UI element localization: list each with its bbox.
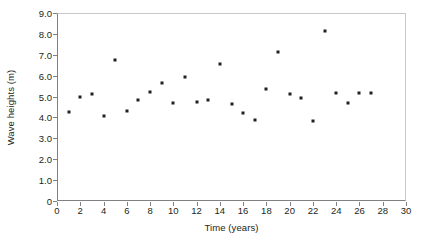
data-point — [300, 96, 303, 99]
y-axis-tick-mark — [53, 117, 57, 118]
y-axis-tick-mark — [53, 13, 57, 14]
x-axis-tick-label: 14 — [215, 205, 226, 216]
x-axis-tick-label: 28 — [377, 205, 388, 216]
data-point — [149, 91, 152, 94]
y-axis-tick-label: 9.0 — [24, 8, 52, 19]
plot-area — [57, 13, 406, 201]
y-axis-tick-label: 8.0 — [24, 28, 52, 39]
y-axis-tick-mark — [53, 180, 57, 181]
y-axis-label: Wave heights (m) — [6, 70, 17, 146]
x-axis-tick-label: 16 — [238, 205, 249, 216]
data-point — [265, 88, 268, 91]
x-axis-tick-label: 2 — [78, 205, 83, 216]
data-point — [172, 101, 175, 104]
data-point — [311, 119, 314, 122]
y-axis-tick-labels: 01.02.03.04.05.06.07.08.09.0 — [24, 0, 52, 244]
y-axis-tick-mark — [53, 34, 57, 35]
data-point — [102, 115, 105, 118]
scatter-plot-figure: Wave heights (m) 01.02.03.04.05.06.07.08… — [0, 0, 425, 244]
data-point — [125, 110, 128, 113]
x-axis-label: Time (years) — [57, 222, 406, 233]
x-axis-tick-label: 18 — [261, 205, 272, 216]
data-point — [137, 98, 140, 101]
x-axis-tick-label: 24 — [331, 205, 342, 216]
data-point — [79, 95, 82, 98]
x-axis-tick-label: 22 — [308, 205, 319, 216]
y-axis-label-container: Wave heights (m) — [0, 0, 22, 215]
x-axis-tick-label: 10 — [168, 205, 179, 216]
x-axis-tick-label: 12 — [191, 205, 202, 216]
y-axis-tick-label: 5.0 — [24, 91, 52, 102]
x-axis-tick-label: 30 — [401, 205, 412, 216]
y-axis-tick-label: 0 — [24, 196, 52, 207]
data-point — [183, 75, 186, 78]
data-point — [370, 92, 373, 95]
data-point — [358, 92, 361, 95]
data-point — [288, 93, 291, 96]
data-point — [114, 59, 117, 62]
data-point — [335, 92, 338, 95]
data-point — [67, 111, 70, 114]
data-point — [242, 112, 245, 115]
data-point — [195, 100, 198, 103]
data-point — [207, 98, 210, 101]
y-axis-tick-label: 4.0 — [24, 112, 52, 123]
y-axis-tick-mark — [53, 97, 57, 98]
data-point — [253, 118, 256, 121]
data-point — [90, 93, 93, 96]
x-axis-tick-label: 6 — [124, 205, 129, 216]
x-axis-tick-label: 4 — [101, 205, 106, 216]
data-point — [323, 29, 326, 32]
data-point — [218, 63, 221, 66]
x-axis-tick-label: 0 — [54, 205, 59, 216]
y-axis-tick-label: 7.0 — [24, 49, 52, 60]
data-point — [160, 81, 163, 84]
y-axis-tick-label: 3.0 — [24, 133, 52, 144]
y-axis-tick-label: 1.0 — [24, 175, 52, 186]
data-point — [277, 50, 280, 53]
y-axis-tick-mark — [53, 55, 57, 56]
y-axis-tick-mark — [53, 138, 57, 139]
y-axis-tick-label: 2.0 — [24, 154, 52, 165]
x-axis-tick-label: 20 — [284, 205, 295, 216]
data-point — [230, 102, 233, 105]
y-axis-tick-mark — [53, 159, 57, 160]
x-axis-tick-label: 8 — [147, 205, 152, 216]
y-axis-tick-mark — [53, 76, 57, 77]
data-point — [346, 101, 349, 104]
y-axis-tick-label: 6.0 — [24, 70, 52, 81]
x-axis-tick-label: 26 — [354, 205, 365, 216]
